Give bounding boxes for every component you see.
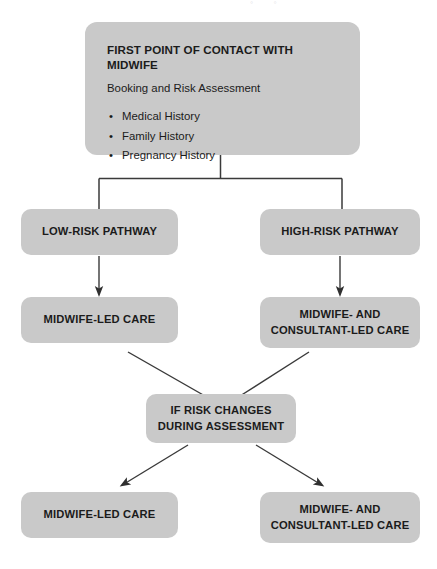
node-consultant-care-line-2: CONSULTANT-LED CARE (271, 518, 410, 534)
node-first-point-of-contact[interactable]: FIRST POINT OF CONTACT WITH MIDWIFE Book… (85, 22, 360, 155)
node-midwife-led-care-low-risk[interactable]: MIDWIFE-LED CARE (21, 297, 178, 343)
flowchart-canvas: ° ° FIRST POINT OF CONTACT WITH MIDWIFE … (0, 0, 437, 569)
list-item: Medical History (122, 107, 215, 127)
node-intake-heading: FIRST POINT OF CONTACT WITH MIDWIFE (107, 42, 338, 72)
connector-risk-change-to-care-low (124, 445, 188, 484)
page-edge-artifact: ° ° (250, 0, 420, 7)
node-consultant-care-line-1: MIDWIFE- AND (300, 502, 381, 518)
node-midwife-led-care-label: MIDWIFE-LED CARE (44, 507, 156, 523)
node-midwife-and-consultant-led-care-after-reassessment[interactable]: MIDWIFE- AND CONSULTANT-LED CARE (260, 492, 420, 543)
node-intake-bullet-list: Medical History Family History Pregnancy… (107, 107, 215, 166)
node-risk-change-line-1: IF RISK CHANGES (170, 403, 271, 419)
node-consultant-care-line-1: MIDWIFE- AND (300, 307, 381, 323)
node-high-risk-pathway-label: HIGH-RISK PATHWAY (281, 224, 398, 240)
node-midwife-led-care-after-reassessment[interactable]: MIDWIFE-LED CARE (21, 492, 178, 538)
node-high-risk-pathway[interactable]: HIGH-RISK PATHWAY (260, 209, 420, 255)
node-low-risk-pathway[interactable]: LOW-RISK PATHWAY (21, 209, 178, 255)
list-item: Pregnancy History (122, 146, 215, 166)
list-item: Family History (122, 127, 215, 147)
node-midwife-and-consultant-led-care-high-risk[interactable]: MIDWIFE- AND CONSULTANT-LED CARE (260, 297, 420, 348)
node-midwife-led-care-label: MIDWIFE-LED CARE (44, 312, 156, 328)
node-risk-change-line-2: DURING ASSESSMENT (158, 419, 284, 435)
node-if-risk-changes-during-assessment[interactable]: IF RISK CHANGES DURING ASSESSMENT (146, 394, 296, 443)
connector-care-high-to-risk-change (240, 352, 309, 396)
connector-risk-change-to-care-high (256, 445, 320, 484)
node-low-risk-pathway-label: LOW-RISK PATHWAY (42, 224, 157, 240)
node-intake-subheading: Booking and Risk Assessment (107, 81, 260, 96)
connector-care-low-to-risk-change (128, 352, 205, 396)
node-consultant-care-line-2: CONSULTANT-LED CARE (271, 323, 410, 339)
